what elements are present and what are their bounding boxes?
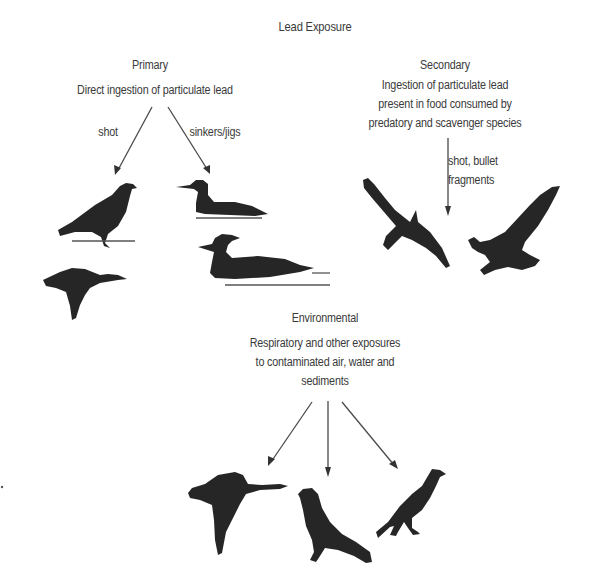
eagle-soaring-icon (363, 178, 450, 268)
pigeon-standing-icon (298, 488, 372, 563)
duck-flying-icon (43, 268, 127, 320)
loon-swimming-icon (176, 180, 268, 218)
diagram-graphics (0, 0, 590, 581)
pigeon-standing-icon (58, 183, 137, 248)
crow-standing-icon (376, 469, 446, 538)
merganser-swimming-icon (198, 234, 330, 285)
arrow-env-left (268, 402, 312, 466)
arrow-sinkers (168, 107, 210, 174)
arrow-secondary (445, 138, 451, 216)
eagle-landing-icon (468, 186, 560, 275)
arrow-env-right (342, 402, 398, 469)
arrow-env-center (325, 401, 331, 477)
goose-flying-icon (188, 472, 288, 555)
scan-speck (1, 486, 3, 488)
arrow-shot (114, 107, 152, 175)
